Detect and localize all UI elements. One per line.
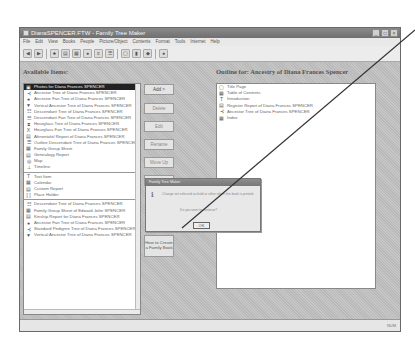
- forward-icon[interactable]: ▶: [34, 49, 43, 58]
- ancestor-tree-icon: ⊰: [219, 109, 224, 114]
- menu-help[interactable]: Help: [211, 38, 220, 46]
- placeholder-icon: [ ]: [26, 193, 31, 198]
- menu-format[interactable]: Format: [156, 38, 170, 46]
- how-to-create-book-button[interactable]: How to Create a Family Book: [144, 235, 174, 257]
- menu-file[interactable]: File: [23, 38, 30, 46]
- menu-people[interactable]: People: [80, 38, 94, 46]
- menu-bar: File Edit View Books People Picture/Obje…: [20, 38, 400, 46]
- window-title: DianaSPENCER.FTW - Family Tree Maker: [31, 28, 145, 38]
- toolbar: ◀ ▶ ♣ ▤ ▦ ● ≡ ☰ ▢ ▮ ◆ ●: [20, 46, 400, 62]
- vertical-tree-icon: ▼: [26, 233, 31, 238]
- records-icon[interactable]: ▢: [121, 49, 130, 58]
- dialog-title[interactable]: Family Tree Maker: [146, 179, 260, 186]
- ok-button[interactable]: OK: [193, 222, 210, 229]
- vertical-scrollbar[interactable]: [135, 84, 140, 314]
- message-dialog: Family Tree Maker ℹ Change set selected …: [145, 178, 261, 232]
- available-items-list[interactable]: ▣Photos for Diana Frances SPENCER ⊰Ances…: [23, 83, 141, 315]
- page-icon: ▢: [219, 85, 224, 90]
- menu-contents[interactable]: Contents: [133, 38, 151, 46]
- minimize-button[interactable]: _: [372, 29, 380, 37]
- family-page-icon[interactable]: ▤: [61, 49, 70, 58]
- outline-header: Outline for: Ancestry of Diana Frances S…: [216, 68, 348, 75]
- descendant-tree-icon: ☷: [26, 109, 31, 114]
- list-divider: [24, 199, 140, 200]
- close-button[interactable]: ×: [390, 29, 398, 37]
- add-button[interactable]: Add >: [144, 84, 174, 95]
- horizontal-scrollbar[interactable]: [24, 309, 140, 314]
- genealogy-icon: ▤: [26, 153, 31, 158]
- delete-button[interactable]: Delete: [144, 103, 174, 114]
- toolbar-separator: [155, 49, 156, 59]
- dialog-message: Change set selected as bold or other whe…: [162, 192, 254, 196]
- edit-button[interactable]: Edit: [144, 121, 174, 132]
- list-item[interactable]: ⊥Timeline: [24, 164, 140, 170]
- outline-item[interactable]: ▦Index: [217, 115, 375, 121]
- index-icon[interactable]: ☰: [105, 49, 114, 58]
- reports-icon[interactable]: ◆: [143, 49, 152, 58]
- title-bar[interactable]: DianaSPENCER.FTW - Family Tree Maker _ □…: [20, 28, 400, 38]
- menu-tools[interactable]: Tools: [175, 38, 186, 46]
- status-num: NUM: [387, 323, 396, 328]
- list-item[interactable]: ▼Vertical Ancestor Tree of Diana Frances…: [24, 232, 140, 238]
- outline-icon[interactable]: ≡: [94, 49, 103, 58]
- pedigree-icon[interactable]: ▦: [72, 49, 81, 58]
- report-icon: ▤: [26, 214, 31, 219]
- maximize-button[interactable]: □: [381, 29, 389, 37]
- custom-report-icon: ▤: [26, 187, 31, 192]
- toolbar-separator: [117, 49, 118, 59]
- descendant-fan-icon: ☵: [26, 116, 31, 121]
- rename-button[interactable]: Rename: [144, 139, 174, 150]
- menu-books[interactable]: Books: [63, 38, 76, 46]
- tree-icon[interactable]: ♣: [50, 49, 59, 58]
- available-items-header: Available Items:: [23, 68, 68, 75]
- timeline-icon: ⊥: [26, 165, 31, 170]
- hourglass-icon: ⧗: [26, 122, 31, 127]
- dialog-question: Do you want to continue?: [180, 208, 217, 212]
- menu-edit[interactable]: Edit: [35, 38, 43, 46]
- toolbar-separator: [46, 49, 47, 59]
- fan-tree-icon: ♠: [26, 221, 31, 226]
- menu-view[interactable]: View: [48, 38, 58, 46]
- info-icon: ℹ: [151, 191, 158, 198]
- group-sheet-icon: ▦: [26, 146, 31, 151]
- menu-internet[interactable]: Internet: [190, 38, 205, 46]
- list-divider: [24, 172, 140, 173]
- window-controls: _ □ ×: [372, 29, 398, 37]
- list-item[interactable]: [ ]Place Holder: [24, 192, 140, 198]
- move-up-button[interactable]: Move Up: [144, 157, 174, 168]
- index-icon: ▦: [219, 116, 224, 121]
- menu-picture-object[interactable]: Picture/Object: [99, 38, 127, 46]
- descendant-icon[interactable]: ●: [83, 49, 92, 58]
- back-icon[interactable]: ◀: [23, 49, 32, 58]
- books-icon[interactable]: ▮: [132, 49, 141, 58]
- calendar-icon: ▦: [26, 180, 31, 185]
- ancestor-tree-icon: ⊰: [26, 227, 31, 232]
- app-icon: [23, 30, 29, 36]
- help-icon[interactable]: ●: [159, 49, 168, 58]
- status-bar: NUM: [20, 319, 400, 331]
- photo-icon: ▣: [26, 85, 31, 90]
